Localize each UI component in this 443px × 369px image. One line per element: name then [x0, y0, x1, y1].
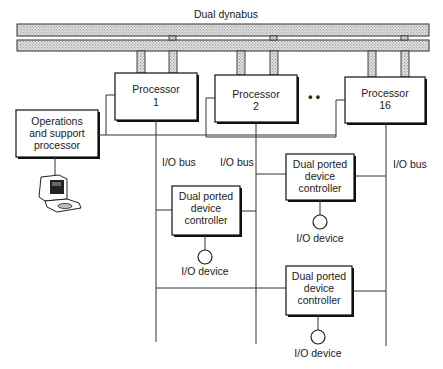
svg-text:Dual ported: Dual ported — [292, 270, 346, 282]
device-controller-b: Dual ported device controller I/O device — [256, 154, 386, 244]
processor-2-label: Processor — [232, 88, 280, 100]
dynabus-x — [17, 24, 429, 36]
computer-terminal-icon — [39, 175, 81, 212]
io-device-icon — [311, 330, 325, 344]
io-device-icon — [198, 250, 212, 264]
io-device-icon — [313, 215, 327, 229]
processor-2-number: 2 — [253, 100, 259, 112]
io-device-label: I/O device — [296, 232, 343, 244]
dynabus-y — [17, 40, 429, 51]
processor-16: Processor 16 — [345, 77, 427, 125]
processor-16-number: 16 — [379, 99, 391, 111]
more-processors-ellipsis: • • — [308, 90, 320, 104]
svg-text:controller: controller — [298, 182, 342, 194]
io-bus-label-2: I/O bus — [220, 156, 254, 168]
io-device-label: I/O device — [181, 265, 228, 277]
dual-dynabus — [17, 24, 429, 51]
processor-1: Processor 1 — [115, 73, 199, 122]
device-controller-c: Dual ported device controller I/O device — [156, 266, 386, 359]
svg-text:Dual ported: Dual ported — [293, 158, 347, 170]
io-bus-label-16: I/O bus — [393, 158, 427, 170]
processor-1-label: Processor — [132, 83, 180, 95]
processor-1-number: 1 — [153, 96, 159, 108]
svg-text:Operations: Operations — [31, 115, 82, 127]
svg-text:device: device — [305, 170, 336, 182]
svg-text:processor: processor — [34, 139, 81, 151]
processor-2: Processor 2 — [215, 75, 299, 124]
io-device-label: I/O device — [294, 347, 341, 359]
bus-link — [270, 36, 277, 40]
svg-text:Dual ported: Dual ported — [179, 190, 233, 202]
svg-text:device: device — [191, 202, 222, 214]
dynabus-title: Dual dynabus — [194, 8, 258, 20]
operations-support-processor: Operations and support processor — [16, 110, 100, 159]
processor-16-label: Processor — [361, 87, 409, 99]
device-controller-a: Dual ported device controller I/O device — [156, 186, 256, 277]
svg-text:controller: controller — [184, 214, 228, 226]
svg-text:and support: and support — [29, 127, 85, 139]
svg-text:controller: controller — [297, 294, 341, 306]
io-bus-label-1: I/O bus — [162, 156, 196, 168]
bus-link — [401, 36, 408, 40]
svg-text:device: device — [304, 282, 335, 294]
system-diagram: Dual dynabus Processor 1 Processor 2 • • — [0, 0, 443, 369]
bus-link — [169, 36, 176, 40]
